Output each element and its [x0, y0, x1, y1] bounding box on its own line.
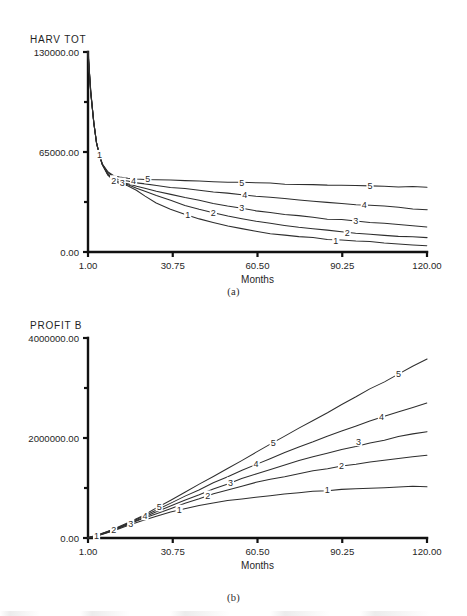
x-tick-label: 1.00	[79, 546, 98, 557]
series-line-2	[88, 52, 427, 238]
curve-label-4: 4	[131, 176, 136, 186]
y-axis-title: HARV TOT	[30, 34, 86, 45]
series-line-5	[88, 359, 427, 538]
curve-label-4: 4	[254, 459, 259, 469]
x-tick-label: 90.25	[330, 546, 354, 557]
curve-label-4: 4	[142, 511, 147, 521]
series-line-1	[88, 486, 427, 537]
series-line-5	[88, 52, 427, 187]
curve-label-5: 5	[145, 174, 150, 184]
chart-profit-b: 0.002000000.004000000.00PROFIT B1.0030.7…	[0, 300, 467, 600]
curve-label-3: 3	[120, 178, 125, 188]
y-tick-label: 4000000.00	[28, 333, 79, 344]
x-tick-label: 1.00	[79, 260, 98, 271]
curve-label-1: 1	[185, 210, 190, 220]
curve-label-2: 2	[205, 491, 210, 501]
curve-label-3: 3	[128, 519, 133, 529]
x-tick-label: 120.00	[412, 260, 441, 271]
caption-a: (a)	[0, 286, 467, 297]
curve-label-5: 5	[368, 181, 373, 191]
curve-label-2: 2	[339, 461, 344, 471]
figure-panel-a: 0.0065000.00130000.00HARV TOT1.0030.7560…	[0, 0, 467, 308]
curve-label-4: 4	[242, 190, 247, 200]
curve-label-2: 2	[211, 208, 216, 218]
series-line-1	[88, 52, 427, 246]
y-tick-label: 2000000.00	[28, 433, 79, 444]
y-tick-label: 65000.00	[39, 147, 79, 158]
x-axis-title: Months	[241, 274, 274, 285]
curve-label-3: 3	[228, 478, 233, 488]
curve-label-3: 3	[353, 216, 358, 226]
x-tick-label: 30.75	[161, 260, 185, 271]
curve-label-2: 2	[111, 176, 116, 186]
x-axis-title: Months	[241, 560, 274, 571]
chart-harv-tot: 0.0065000.00130000.00HARV TOT1.0030.7560…	[0, 0, 467, 300]
curve-label-3: 3	[356, 437, 361, 447]
curve-label-5: 5	[239, 178, 244, 188]
curve-label-4: 4	[362, 200, 367, 210]
curve-label-5: 5	[396, 369, 401, 379]
curve-label-4: 4	[379, 412, 384, 422]
caption-b: (b)	[0, 592, 467, 603]
curve-label-3: 3	[239, 203, 244, 213]
figure-panel-b: 0.002000000.004000000.00PROFIT B1.0030.7…	[0, 300, 467, 616]
curve-label-2: 2	[345, 228, 350, 238]
y-tick-label: 0.00	[60, 533, 79, 544]
y-tick-label: 130000.00	[34, 47, 79, 58]
curve-label-1: 1	[333, 236, 338, 246]
curve-label-1: 1	[325, 485, 330, 495]
x-tick-label: 60.50	[245, 260, 269, 271]
curve-label-1: 1	[177, 505, 182, 515]
x-tick-label: 30.75	[161, 546, 185, 557]
curve-label-1: 1	[97, 150, 102, 160]
y-tick-label: 0.00	[60, 247, 79, 258]
curve-label-5: 5	[271, 438, 276, 448]
curve-label-1: 1	[94, 531, 99, 541]
x-tick-label: 120.00	[412, 546, 441, 557]
page-edge-artifact	[0, 611, 467, 616]
x-tick-label: 60.50	[245, 546, 269, 557]
curve-label-2: 2	[111, 525, 116, 535]
y-axis-title: PROFIT B	[30, 320, 82, 331]
x-tick-label: 90.25	[330, 260, 354, 271]
curve-label-5: 5	[157, 502, 162, 512]
series-line-3	[88, 52, 427, 227]
